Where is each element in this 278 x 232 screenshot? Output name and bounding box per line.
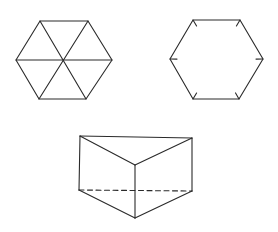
- prism-top-edge: [135, 138, 192, 165]
- prism-bottom-edge: [79, 190, 135, 218]
- vertex-tick-mark: [236, 93, 239, 99]
- ticked-hexagon: [170, 20, 263, 99]
- prism-top-edge: [80, 136, 135, 165]
- prism-bottom-edge: [135, 191, 192, 218]
- vertex-tick-mark: [193, 20, 197, 26]
- diagram-canvas: [0, 0, 278, 232]
- hexagon-outline: [170, 20, 263, 99]
- vertex-tick-mark: [193, 93, 197, 99]
- prism-vertical-edge: [79, 136, 80, 190]
- triangulated-hexagon: [16, 21, 112, 99]
- vertex-tick-mark: [236, 20, 240, 26]
- prism-top-edge: [80, 136, 192, 138]
- triangular-prism: [79, 136, 192, 218]
